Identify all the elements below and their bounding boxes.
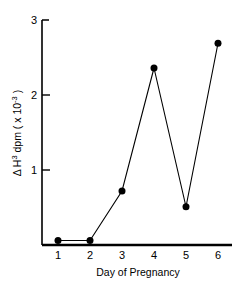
x-axis-title: Day of Pregnancy [96, 266, 180, 278]
y-axis-title: ΔH3 dpm ( x 10-3 ) [10, 90, 24, 176]
svg-text:ΔH3 dpm ( x 10-3 ): ΔH3 dpm ( x 10-3 ) [10, 90, 24, 176]
data-series-line [58, 43, 218, 240]
x-tick-label-4: 4 [151, 249, 157, 261]
y-axis-line [42, 20, 49, 245]
y-axis-title-exponent: -3 [10, 96, 19, 103]
chart-figure: 1 2 3 ΔH3 dpm ( x 10-3 ) 1 2 3 4 5 6 Day… [0, 0, 235, 285]
data-series-markers [55, 40, 222, 244]
x-tick-label-5: 5 [183, 249, 189, 261]
x-tick-label-6: 6 [215, 249, 221, 261]
x-tick-label-1: 1 [55, 249, 61, 261]
x-tick-label-3: 3 [119, 249, 125, 261]
y-tick-label-3: 3 [31, 14, 37, 26]
y-tick-label-2: 2 [31, 89, 37, 101]
data-point [119, 188, 126, 195]
data-point [87, 237, 94, 244]
data-point [55, 237, 62, 244]
data-point [151, 65, 158, 72]
data-point [215, 40, 222, 47]
y-tick-label-1: 1 [31, 164, 37, 176]
y-axis-title-delta: Δ [11, 169, 23, 176]
y-axis-title-h: H [11, 160, 23, 168]
y-axis-title-dpm: dpm ( x 10 [11, 103, 23, 156]
data-point [183, 203, 190, 210]
x-tick-label-2: 2 [87, 249, 93, 261]
line-chart: 1 2 3 ΔH3 dpm ( x 10-3 ) 1 2 3 4 5 6 Day… [0, 0, 235, 285]
y-axis-title-close: ) [11, 90, 23, 96]
